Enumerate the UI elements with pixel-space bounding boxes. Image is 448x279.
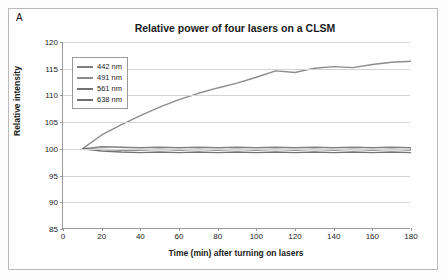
x-tick-label: 120: [288, 232, 301, 241]
x-tick-mark: [218, 228, 219, 231]
legend-item: 442 nm: [77, 61, 122, 72]
x-tick-label: 140: [327, 232, 340, 241]
gridline: [63, 122, 410, 123]
y-axis-label: Relative intensity: [12, 66, 22, 136]
y-tick-label: 120: [45, 38, 58, 47]
legend-item: 561 nm: [77, 83, 122, 94]
x-tick-label: 180: [404, 232, 417, 241]
x-tick-mark: [256, 228, 257, 231]
legend-label: 561 nm: [97, 84, 122, 93]
legend-swatch: [77, 88, 93, 90]
y-tick-label: 115: [45, 64, 58, 73]
x-tick-mark: [372, 228, 373, 231]
y-tick-label: 105: [45, 118, 58, 127]
chart-title: Relative power of four lasers on a CLSM: [70, 22, 400, 34]
y-tick-mark: [60, 95, 63, 96]
x-tick-label: 160: [366, 232, 379, 241]
x-tick-mark: [140, 228, 141, 231]
gridline: [63, 202, 410, 203]
y-tick-mark: [60, 149, 63, 150]
gridline: [63, 149, 410, 150]
x-tick-mark: [102, 228, 103, 231]
y-tick-label: 85: [49, 225, 58, 234]
series-line: [82, 61, 411, 149]
legend-swatch: [77, 77, 93, 79]
x-axis-label: Time (min) after turning on lasers: [62, 248, 410, 258]
panel-label: A: [16, 12, 23, 23]
y-tick-label: 100: [45, 144, 58, 153]
legend-label: 638 nm: [97, 95, 122, 104]
x-tick-label: 40: [136, 232, 145, 241]
y-tick-mark: [60, 122, 63, 123]
legend-swatch: [77, 99, 93, 101]
figure-panel: A Relative power of four lasers on a CLS…: [0, 0, 448, 279]
x-tick-label: 0: [61, 232, 65, 241]
x-tick-mark: [334, 228, 335, 231]
gridline: [63, 176, 410, 177]
y-tick-label: 110: [45, 91, 58, 100]
y-tick-label: 90: [49, 198, 58, 207]
x-tick-label: 80: [213, 232, 222, 241]
legend-label: 491 nm: [97, 73, 122, 82]
x-tick-mark: [179, 228, 180, 231]
y-tick-mark: [60, 69, 63, 70]
x-tick-mark: [63, 228, 64, 231]
y-tick-label: 95: [49, 171, 58, 180]
x-tick-label: 20: [97, 232, 106, 241]
legend: 442 nm491 nm561 nm638 nm: [72, 57, 128, 109]
legend-label: 442 nm: [97, 62, 122, 71]
x-tick-mark: [295, 228, 296, 231]
y-tick-mark: [60, 42, 63, 43]
x-tick-mark: [411, 228, 412, 231]
x-tick-label: 100: [250, 232, 263, 241]
legend-item: 638 nm: [77, 94, 122, 105]
y-tick-mark: [60, 202, 63, 203]
gridline: [63, 42, 410, 43]
legend-item: 491 nm: [77, 72, 122, 83]
legend-swatch: [77, 66, 93, 68]
x-tick-label: 60: [175, 232, 184, 241]
y-tick-mark: [60, 176, 63, 177]
